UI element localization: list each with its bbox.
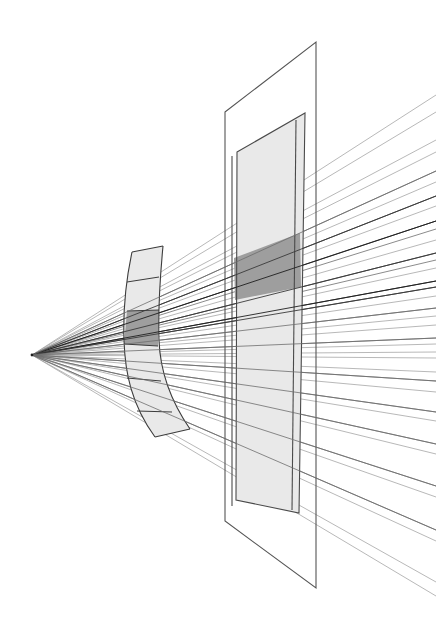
ray: [32, 355, 436, 486]
ray: [32, 355, 436, 421]
focal-point-marker: [31, 354, 34, 357]
projected-footprint-fill: [236, 113, 305, 513]
ray: [32, 152, 436, 355]
projected-footprint: [232, 113, 305, 513]
ray: [32, 95, 436, 355]
curved-optic: [124, 246, 190, 437]
figure-root: Ray-trace of a segmented curved optic on…: [0, 0, 436, 639]
focal-point-dot: [31, 354, 34, 357]
ray-diagram: [0, 0, 436, 639]
ray: [32, 355, 436, 530]
ray: [32, 268, 436, 355]
ray: [32, 355, 436, 582]
ray: [32, 112, 436, 355]
ray: [32, 355, 436, 392]
ray: [32, 206, 436, 355]
ray: [32, 355, 436, 541]
ray-bundle-back: [32, 95, 436, 596]
ray: [32, 171, 436, 355]
ray: [32, 221, 436, 355]
ray: [32, 355, 436, 454]
